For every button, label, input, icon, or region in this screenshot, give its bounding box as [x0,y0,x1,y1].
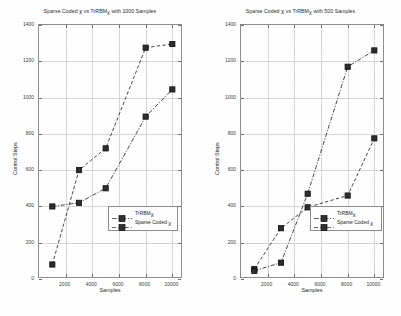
legend-left: TrRBMχ Sparse Coded χ [108,206,178,231]
data-point-marker [278,260,283,265]
legend-line-sample-trrbm-right [313,209,335,218]
y-axis-label-left: Control Steps [12,142,18,175]
chart-panel-left: Sparse Coded χ vs TrRBMχ with 1000 Sampl… [0,0,200,316]
legend-item-sparse-right: Sparse Coded χ [313,218,378,227]
series-plot-left [39,25,183,279]
y-tick-label: 400 [210,202,236,208]
data-point-marker [170,41,175,46]
chart-title-left: Sparse Coded χ vs TrRBMχ with 1000 Sampl… [0,8,200,15]
legend-line-sample-sparse-right [313,218,335,227]
y-tick-label: 1000 [8,94,34,100]
x-tick-label: 8000 [139,281,150,287]
y-tick-label: 800 [210,130,236,136]
legend-label-sparse-right: Sparse Coded χ [335,219,373,226]
data-point-marker [50,262,55,267]
legend-label-trrbm-right: TrRBMχ [335,210,356,217]
data-point-marker [103,186,108,191]
legend-item-trrbm-left: TrRBMχ [111,209,174,218]
data-point-marker [278,226,283,231]
y-tick-label: 200 [8,239,34,245]
series-plot-right [241,25,385,279]
y-tick-label: 1200 [8,57,34,63]
data-point-marker [372,136,377,141]
y-tick-mark [241,279,244,280]
chart-title-right: Sparse Coded χ vs TrRBMχ with 500 Sample… [200,8,401,15]
chart-title-left-prefix: Sparse Coded [44,8,79,14]
data-point-marker [143,114,148,119]
y-tick-label: 400 [8,202,34,208]
data-point-marker [345,64,350,69]
y-axis-label-right: Control Steps [214,142,220,175]
y-tick-label: 1200 [210,57,236,63]
y-tick-mark [39,279,42,280]
y-tick-label: 1000 [210,94,236,100]
data-point-marker [103,146,108,151]
chart-panel-right: Sparse Coded χ vs TrRBMχ with 500 Sample… [200,0,401,316]
x-tick-label: 2000 [59,281,70,287]
x-tick-label: 8000 [341,281,352,287]
y-tick-label: 200 [210,239,236,245]
series-line-trrbm [254,138,374,269]
data-point-marker [50,204,55,209]
x-axis-label-left: Samples [100,287,121,293]
legend-label-sparse-left: Sparse Coded χ [133,219,171,226]
data-point-marker [372,48,377,53]
legend-right: TrRBMχ Sparse Coded χ [310,206,382,231]
y-tick-label: 0 [210,275,236,281]
series-line-trrbm [52,89,172,206]
data-point-marker [170,87,175,92]
x-tick-label: 10000 [164,281,178,287]
chart-title-right-suffix: with 500 Samples [312,8,355,14]
y-tick-label: 800 [8,130,34,136]
chart-title-right-prefix: Sparse Coded [246,8,281,14]
x-axis-label-right: Samples [302,287,323,293]
x-tick-label: 4000 [288,281,299,287]
data-point-marker [252,268,257,273]
y-tick-label: 1400 [210,21,236,27]
series-line-sparsecoded [254,50,374,270]
plot-area-right [240,24,384,278]
chart-title-right-mid: vs TrRBM [284,8,309,14]
data-point-marker [76,168,81,173]
legend-line-sample-sparse-left [111,218,133,227]
y-tick-mark [380,279,383,280]
figure-root: Sparse Coded χ vs TrRBMχ with 1000 Sampl… [0,0,401,316]
data-point-marker [305,191,310,196]
y-tick-mark [178,279,181,280]
legend-label-trrbm-left: TrRBMχ [133,210,154,217]
plot-area-left [38,24,182,278]
data-point-marker [345,193,350,198]
chart-title-left-mid: vs TrRBM [82,8,107,14]
chart-title-left-suffix: with 1000 Samples [110,8,156,14]
x-tick-label: 4000 [86,281,97,287]
legend-item-trrbm-right: TrRBMχ [313,209,378,218]
x-tick-label: 10000 [366,281,380,287]
legend-line-sample-trrbm-left [111,209,133,218]
y-tick-label: 0 [8,275,34,281]
data-point-marker [76,200,81,205]
x-tick-label: 2000 [261,281,272,287]
data-point-marker [143,45,148,50]
y-tick-label: 1400 [8,21,34,27]
legend-item-sparse-left: Sparse Coded χ [111,218,174,227]
